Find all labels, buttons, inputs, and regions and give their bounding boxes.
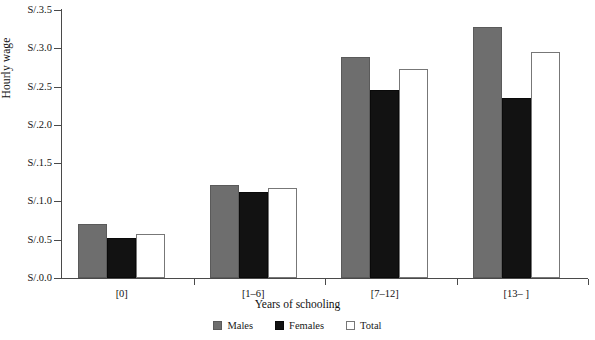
x-axis-tick — [457, 279, 458, 285]
legend-swatch-males-icon — [213, 321, 222, 330]
y-axis-tick-label: S/.2.0 — [4, 120, 52, 130]
y-axis-tick — [54, 125, 61, 126]
bar-females-1 — [239, 192, 268, 278]
y-axis-tick — [54, 48, 61, 49]
bar-females-2 — [370, 90, 399, 278]
y-axis-title: Hourly wage — [0, 23, 18, 113]
y-axis-tick — [54, 201, 61, 202]
x-axis-tick — [325, 279, 326, 285]
bar-males-0 — [78, 224, 107, 278]
y-axis-tick — [54, 10, 61, 11]
y-axis-tick-label: S/.0.0 — [4, 273, 52, 283]
legend-label: Total — [360, 320, 381, 331]
legend-item-males: Males — [213, 320, 253, 331]
y-axis-tick-label: S/.1.5 — [4, 158, 52, 168]
chart-legend: MalesFemalesTotal — [0, 320, 595, 331]
bar-females-3 — [502, 98, 531, 278]
y-axis-tick-label: S/.3.5 — [4, 5, 52, 15]
y-axis-tick-label: S/.2.5 — [4, 82, 52, 92]
bar-males-3 — [473, 27, 502, 278]
legend-item-total: Total — [346, 320, 381, 331]
y-axis-tick — [54, 240, 61, 241]
y-axis-tick — [54, 163, 61, 164]
legend-swatch-total-icon — [346, 321, 355, 330]
x-axis-title: Years of schooling — [0, 298, 595, 310]
x-axis-tick — [588, 279, 589, 285]
legend-label: Females — [289, 320, 324, 331]
bar-chart: Hourly wage S/.0.0S/.0.5S/.1.0S/.1.5S/.2… — [0, 0, 595, 340]
y-axis-tick — [54, 278, 61, 279]
y-axis-tick — [54, 87, 61, 88]
y-axis-tick-label: S/.3.0 — [4, 43, 52, 53]
bar-total-3 — [531, 52, 560, 278]
legend-swatch-females-icon — [275, 321, 284, 330]
bar-total-1 — [268, 188, 297, 278]
legend-label: Males — [227, 320, 253, 331]
bar-total-2 — [399, 69, 428, 278]
x-axis-tick — [194, 279, 195, 285]
y-axis-tick-label: S/.1.0 — [4, 196, 52, 206]
bar-males-1 — [210, 185, 239, 278]
y-axis-tick-label: S/.0.5 — [4, 235, 52, 245]
bar-total-0 — [136, 234, 165, 278]
bar-males-2 — [341, 57, 370, 278]
legend-item-females: Females — [275, 320, 324, 331]
bar-females-0 — [107, 238, 136, 278]
plot-area — [62, 10, 588, 278]
